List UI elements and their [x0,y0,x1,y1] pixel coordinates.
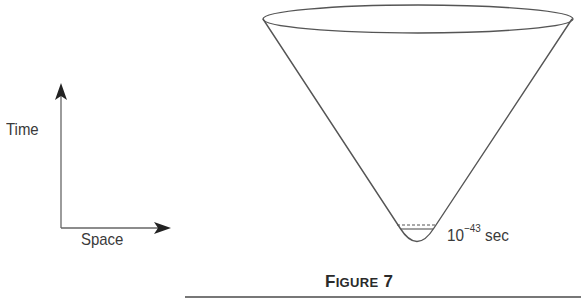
cone-sides [263,19,572,242]
time-axis-label: Time [6,120,39,140]
caption-number: 7 [383,272,393,291]
diagram-canvas [0,0,581,302]
caption-smallcaps: IGURE [336,275,379,290]
annotation-exponent: −43 [464,222,481,234]
light-cone [263,5,573,242]
planck-time-annotation: 10−43 sec [447,224,509,246]
figure-caption: FIGURE 7 [325,272,393,292]
caption-initial: F [325,272,336,291]
annotation-base: 10 [447,226,464,245]
axes [61,92,160,228]
annotation-unit: sec [485,226,509,245]
cone-top-ellipse [263,5,573,33]
space-axis-label: Space [81,230,123,250]
